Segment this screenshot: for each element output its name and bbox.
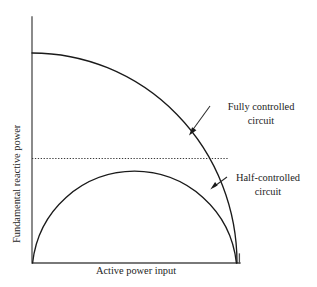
figure-canvas: Fundamental reactive power Active power … xyxy=(0,0,317,287)
curve-half-controlled-circuit xyxy=(33,171,237,263)
fully-controlled-leader-line xyxy=(192,106,211,132)
axis-frame-line xyxy=(32,17,240,263)
callout-half-controlled-line1: Half-controlled xyxy=(236,172,301,183)
axis-group xyxy=(32,17,240,263)
callout-fully-controlled-line1: Fully controlled xyxy=(228,101,295,112)
x-axis-title: Active power input xyxy=(96,265,176,276)
callout-half-controlled-line2: circuit xyxy=(255,186,282,197)
callout-fully-controlled-line2: circuit xyxy=(248,115,275,126)
half-controlled-leader xyxy=(210,177,227,189)
callout-fully-controlled-circuit: Fully controlled circuit xyxy=(228,101,295,126)
figure-root: Fundamental reactive power Active power … xyxy=(0,0,317,287)
half-controlled-arrow-icon xyxy=(210,182,217,189)
fully-controlled-leader xyxy=(189,106,210,136)
y-axis-title: Fundamental reactive power xyxy=(11,124,22,243)
callout-half-controlled-circuit: Half-controlled circuit xyxy=(236,172,301,197)
